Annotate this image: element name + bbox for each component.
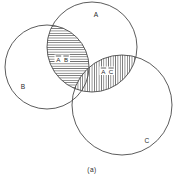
region-ac-label-second: C: [109, 68, 114, 75]
region-ab-label-second: B: [64, 56, 68, 63]
region-ab-label-first: A: [56, 56, 61, 63]
venn-diagram-figure: A B C A B A C (a): [0, 0, 184, 179]
figure-caption: (a): [87, 166, 96, 174]
region-label-ac: A C: [100, 67, 116, 76]
venn-diagram-canvas: A B C A B A C (a): [0, 0, 184, 179]
set-label-b: B: [21, 83, 26, 90]
set-label-c: C: [145, 137, 150, 144]
region-ac-hatch-fill: [72, 55, 172, 155]
region-ac-label-first: A: [101, 68, 106, 75]
region-label-ab: A B: [55, 55, 71, 64]
set-label-a: A: [94, 11, 99, 18]
